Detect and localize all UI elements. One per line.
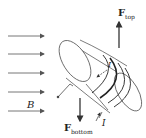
- current-label-inner: I: [107, 60, 112, 69]
- current-arrow-inner: [97, 70, 107, 77]
- field-label: B: [26, 99, 34, 110]
- force-top-label: F top: [118, 7, 135, 21]
- svg-text:top: top: [125, 13, 135, 21]
- force-bottom-label: F bottom: [64, 122, 93, 135]
- magnetic-field-arrows: [8, 36, 44, 111]
- solenoid-diagram: B I I F top F bottom: [0, 0, 146, 138]
- svg-text:bottom: bottom: [71, 128, 93, 135]
- current-label-lead: I: [101, 118, 106, 128]
